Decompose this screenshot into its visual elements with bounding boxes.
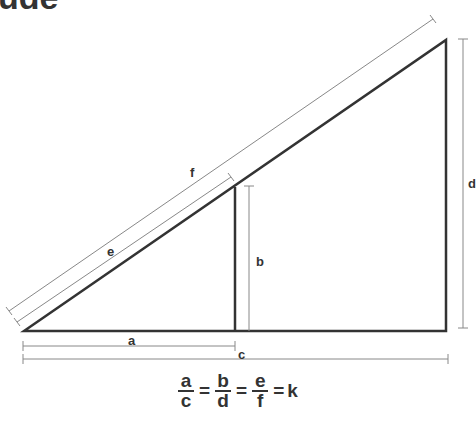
proportion-formula: ac = bd = ef = k: [176, 372, 298, 410]
e-dimension: [14, 173, 234, 326]
constant-k: k: [287, 380, 298, 402]
label-f: f: [190, 165, 194, 180]
label-a: a: [128, 333, 135, 348]
f-dimension: [6, 15, 436, 315]
label-c: c: [238, 347, 245, 362]
c-dimension: [23, 354, 448, 364]
fraction-e-f: ef: [252, 372, 268, 410]
label-b: b: [256, 254, 264, 269]
d-dimension: [458, 39, 468, 328]
fraction-a-c: ac: [178, 372, 194, 410]
fraction-b-d: bd: [215, 372, 231, 410]
b-dimension: [244, 186, 254, 331]
label-e: e: [107, 244, 114, 259]
label-d: d: [468, 176, 476, 191]
